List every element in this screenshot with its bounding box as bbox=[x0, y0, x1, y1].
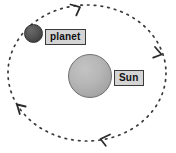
planet-label: planet bbox=[45, 29, 86, 45]
orbit-arrow-left-icon bbox=[17, 105, 26, 115]
planet-body bbox=[24, 24, 43, 43]
sun-label: Sun bbox=[114, 70, 144, 86]
sun-body bbox=[68, 54, 112, 98]
orbit-diagram: planet Sun bbox=[0, 0, 176, 153]
orbit-arrow-top-icon bbox=[71, 5, 81, 16]
orbit-arrow-bottom-icon bbox=[101, 135, 111, 146]
